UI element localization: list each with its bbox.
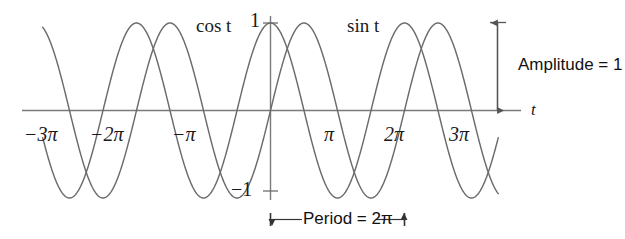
period-annotation-label: Period = 2π [303,210,393,227]
x-tick-label-pi: π [324,124,334,144]
sine-curve-label-text: sin t [347,15,379,36]
sine-curve-label: sin t [347,16,379,35]
x-axis-name-label: t [531,101,536,118]
cosine-curve-label-text: cos t [196,15,231,36]
x-tick-label-neg-2pi: −2π [90,124,124,144]
x-tick-label-neg-pi: −π [172,124,196,144]
cosine-curve-label: cos t [196,16,231,35]
trig-functions-figure: 1 −1 cos t sin t −3π −2π −π π 2π 3π t Am… [0,0,625,239]
y-value-top-label: 1 [250,10,260,30]
x-tick-label-3pi: 3π [449,124,469,144]
x-tick-label-neg-3pi: −3π [24,124,58,144]
x-tick-label-2pi: 2π [384,124,404,144]
amplitude-annotation-label: Amplitude = 1 [518,56,622,73]
y-value-bottom-label: −1 [231,179,252,199]
plot-canvas [0,0,625,239]
